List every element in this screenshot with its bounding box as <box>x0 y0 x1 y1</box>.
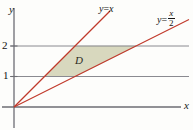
shaded-region-D <box>45 46 137 77</box>
region-label-D: D <box>75 55 83 66</box>
math-figure: y x 2 1 D y=x y=x2 <box>0 0 193 130</box>
y-axis-label: y <box>9 4 14 15</box>
x-axis-label: x <box>184 100 189 111</box>
curve2-eq: = <box>161 14 167 25</box>
tick-label-y-2: 2 <box>2 40 8 51</box>
curve-label-y-equals-x-over-2: y=x2 <box>157 9 175 29</box>
fraction-denominator: 2 <box>168 19 175 28</box>
curve-label-y-equals-x: y=x <box>99 4 114 14</box>
tick-label-y-1: 1 <box>3 70 9 81</box>
curve1-rhs: x <box>109 3 113 14</box>
line-y-equals-x-over-2 <box>14 20 189 108</box>
fraction-x-over-2: x2 <box>168 9 175 29</box>
